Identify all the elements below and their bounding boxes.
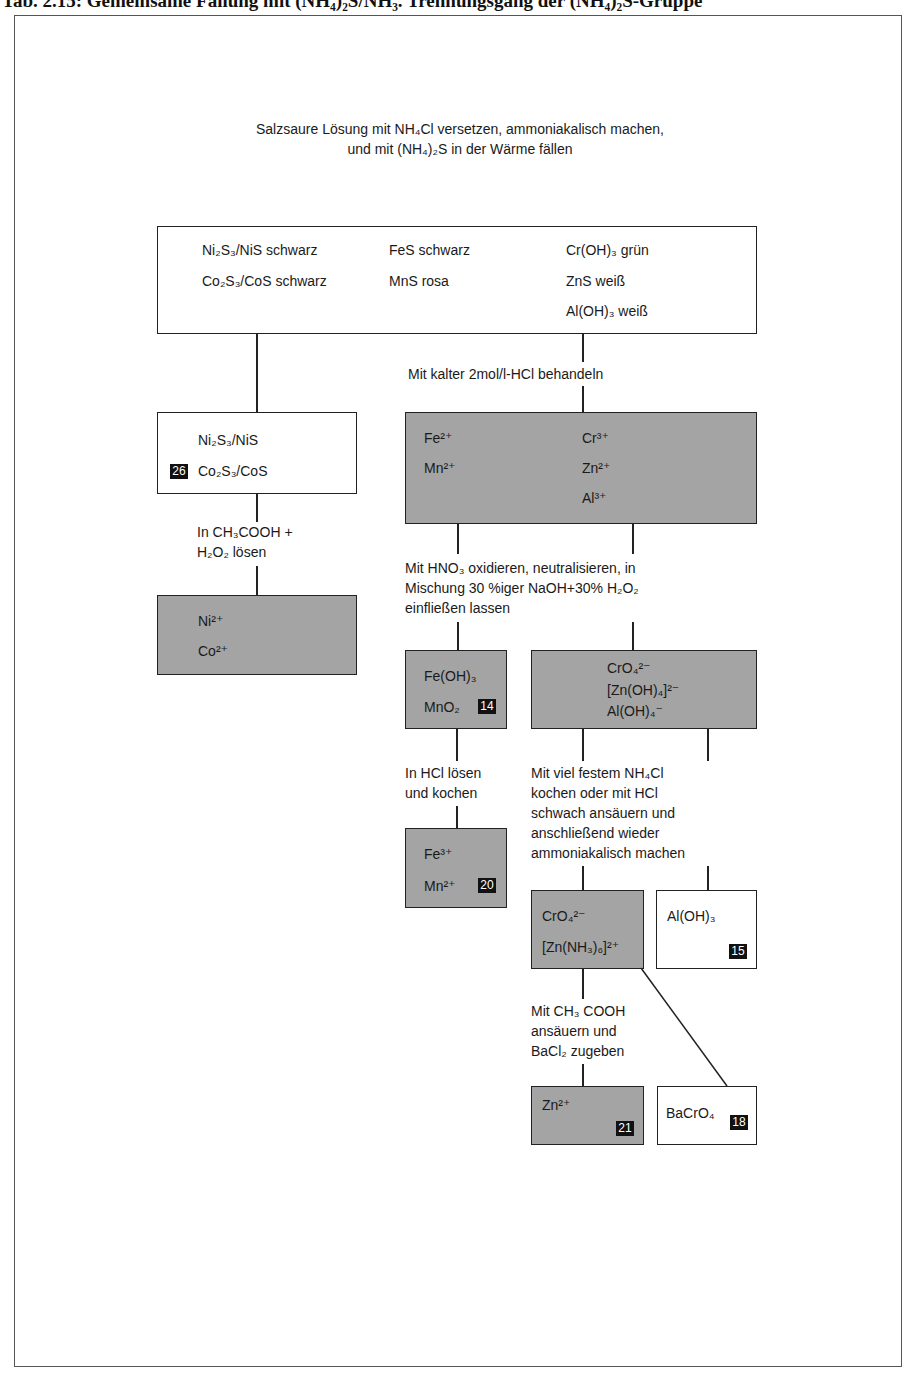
zinc-box: Zn²⁺ 21 [531, 1086, 644, 1145]
diagonal-connector [0, 0, 908, 1373]
barium-chromate-box: BaCrO₄ 18 [657, 1086, 757, 1145]
step-bacl2-1: Mit CH₃ COOH [531, 1002, 625, 1021]
connector-line [582, 969, 584, 999]
step-bacl2-3: BaCl₂ zugeben [531, 1042, 624, 1061]
ion-zn2-final: Zn²⁺ [542, 1097, 570, 1113]
reference-badge: 18 [730, 1115, 748, 1130]
reference-badge: 21 [616, 1121, 634, 1136]
barium-chromate: BaCrO₄ [666, 1105, 715, 1121]
step-bacl2-2: ansäuern und [531, 1022, 617, 1041]
connector-line [582, 1064, 584, 1086]
